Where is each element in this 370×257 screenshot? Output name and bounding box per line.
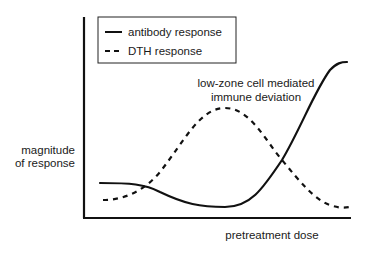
legend-label-dth: DTH response	[128, 45, 202, 57]
annotation-line-2: immune deviation	[211, 91, 301, 103]
y-axis-label-line-1: magnitude	[21, 144, 75, 156]
dth-response-curve	[103, 108, 350, 208]
legend-label-antibody: antibody response	[128, 26, 222, 38]
legend: antibody response DTH response	[98, 17, 236, 63]
x-axis-label: pretreatment dose	[225, 229, 318, 241]
annotation-line-1: low-zone cell mediated	[198, 77, 315, 89]
y-axis-label-line-2: of response	[15, 157, 75, 169]
response-diagram: antibody response DTH response low-zone …	[0, 0, 370, 257]
